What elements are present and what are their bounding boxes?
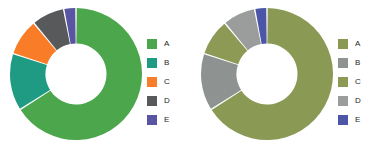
legend-swatch-icon-a xyxy=(147,39,157,49)
legend-right: ABCDE xyxy=(338,34,380,129)
legend-left: ABCDE xyxy=(147,34,189,129)
legend-item-d: D xyxy=(338,91,380,110)
legend-label-b: B xyxy=(164,59,169,67)
legend-item-b: B xyxy=(338,53,380,72)
legend-item-b: B xyxy=(147,53,189,72)
legend-swatch-icon-c xyxy=(147,77,157,87)
chart-panel-right: ABCDE xyxy=(191,0,382,162)
legend-swatch-icon-b xyxy=(338,58,348,68)
legend-swatch-icon-d xyxy=(338,96,348,106)
legend-swatch-icon-c xyxy=(338,77,348,87)
legend-swatch-icon-e xyxy=(147,115,157,125)
legend-item-e: E xyxy=(147,110,189,129)
legend-label-b: B xyxy=(355,59,360,67)
legend-item-a: A xyxy=(147,34,189,53)
legend-label-c: C xyxy=(164,78,170,86)
two-panel-donut-figure: ABCDE ABCDE xyxy=(0,0,382,162)
donut-slices-left xyxy=(10,8,142,140)
legend-label-a: A xyxy=(164,40,169,48)
legend-swatch-icon-b xyxy=(147,58,157,68)
legend-label-d: D xyxy=(355,97,361,105)
donut-slices-right xyxy=(201,8,333,140)
donut-svg-right xyxy=(199,3,335,145)
legend-item-c: C xyxy=(147,72,189,91)
legend-item-c: C xyxy=(338,72,380,91)
donut-svg-left xyxy=(8,3,144,145)
legend-swatch-icon-d xyxy=(147,96,157,106)
donut-chart-right xyxy=(199,3,335,145)
legend-swatch-icon-e xyxy=(338,115,348,125)
legend-label-e: E xyxy=(355,116,360,124)
legend-item-d: D xyxy=(147,91,189,110)
legend-label-d: D xyxy=(164,97,170,105)
legend-item-e: E xyxy=(338,110,380,129)
legend-label-c: C xyxy=(355,78,361,86)
legend-swatch-icon-a xyxy=(338,39,348,49)
chart-panel-left: ABCDE xyxy=(0,0,191,162)
donut-chart-left xyxy=(8,3,144,145)
legend-item-a: A xyxy=(338,34,380,53)
legend-label-a: A xyxy=(355,40,360,48)
legend-label-e: E xyxy=(164,116,169,124)
